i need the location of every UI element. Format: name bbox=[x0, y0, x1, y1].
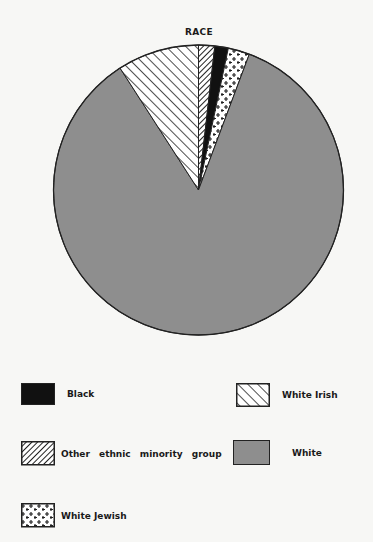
pie-slices bbox=[53, 45, 343, 335]
legend-item-other-ethnic: Other ethnic minority group bbox=[21, 441, 222, 466]
grey-swatch-icon bbox=[233, 440, 270, 465]
legend-item-black: Black bbox=[21, 383, 94, 405]
legend-item-white-jewish: White Jewish bbox=[21, 503, 127, 528]
black-swatch-icon bbox=[21, 383, 55, 405]
cross-pattern-swatch-icon bbox=[21, 503, 55, 528]
dense-hatch-swatch-icon bbox=[21, 441, 55, 466]
legend-label: Black bbox=[67, 389, 94, 399]
wide-hatch-swatch-icon bbox=[236, 383, 270, 407]
legend-label: White Irish bbox=[282, 390, 338, 400]
legend-label: Other ethnic minority group bbox=[61, 449, 222, 459]
legend-label: White Jewish bbox=[61, 511, 127, 521]
pie-chart bbox=[0, 0, 373, 360]
legend-label: White bbox=[292, 448, 322, 458]
legend-item-white: White bbox=[233, 440, 322, 465]
legend-item-white-irish: White Irish bbox=[236, 383, 338, 407]
